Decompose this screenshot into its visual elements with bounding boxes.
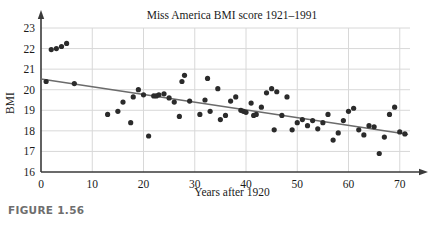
data-point — [336, 130, 341, 135]
data-point — [156, 92, 161, 97]
x-tick-label: 70 — [394, 178, 406, 190]
data-point — [64, 41, 69, 46]
data-point — [387, 112, 392, 117]
data-point — [197, 112, 202, 117]
data-point — [233, 94, 238, 99]
data-point — [325, 112, 330, 117]
data-point — [187, 98, 192, 103]
data-point — [295, 120, 300, 125]
y-tick-label: 17 — [24, 145, 36, 157]
figure-caption: FIGURE 1.56 — [8, 204, 84, 216]
data-point — [179, 79, 184, 84]
data-point — [320, 120, 325, 125]
data-point — [218, 117, 223, 122]
data-point — [54, 46, 59, 51]
data-point — [382, 134, 387, 139]
data-point — [346, 109, 351, 114]
y-axis-title: BMI — [4, 92, 16, 114]
chart-title: Miss America BMI score 1921–1991 — [147, 9, 318, 21]
data-point — [361, 132, 366, 137]
data-point — [72, 81, 77, 86]
data-point — [115, 109, 120, 114]
data-point — [377, 151, 382, 156]
y-tick-label: 23 — [24, 22, 36, 34]
y-tick-label: 20 — [24, 84, 36, 96]
x-axis-title: Years after 1920 — [194, 186, 270, 198]
x-tick-label: 50 — [292, 178, 304, 190]
data-point — [249, 100, 254, 105]
data-point — [279, 113, 284, 118]
data-point — [315, 126, 320, 131]
data-point — [300, 117, 305, 122]
data-point — [392, 105, 397, 110]
data-point — [397, 129, 402, 134]
data-point — [290, 127, 295, 132]
data-point — [215, 86, 220, 91]
data-point — [269, 86, 274, 91]
scatter-plot: 1617181920212223 010203040506070 Miss Am… — [0, 0, 431, 226]
y-tick-label: 16 — [24, 166, 36, 178]
data-point — [182, 73, 187, 78]
data-point — [264, 90, 269, 95]
x-tick-label: 0 — [38, 178, 44, 190]
y-tick-label: 21 — [24, 63, 36, 75]
data-point — [146, 133, 151, 138]
data-point — [284, 94, 289, 99]
x-tick-label: 10 — [87, 178, 99, 190]
data-point — [202, 97, 207, 102]
data-point — [356, 127, 361, 132]
data-point — [341, 118, 346, 123]
x-tick-label: 60 — [343, 178, 355, 190]
data-point — [228, 98, 233, 103]
data-point — [243, 110, 248, 115]
data-point — [141, 92, 146, 97]
data-point — [49, 47, 54, 52]
data-point — [223, 113, 228, 118]
data-point — [59, 44, 64, 49]
data-point — [272, 127, 277, 132]
data-point — [128, 120, 133, 125]
data-point — [172, 99, 177, 104]
data-point — [351, 106, 356, 111]
data-point — [136, 87, 141, 92]
data-point — [105, 112, 110, 117]
data-point — [274, 89, 279, 94]
y-tick-label: 22 — [24, 43, 36, 55]
data-point — [205, 76, 210, 81]
data-point — [44, 79, 49, 84]
data-point — [177, 114, 182, 119]
data-point — [120, 99, 125, 104]
data-point — [305, 123, 310, 128]
data-point — [310, 118, 315, 123]
data-point — [402, 131, 407, 136]
y-tick-label: 18 — [24, 125, 36, 137]
data-point — [254, 112, 259, 117]
data-point — [372, 124, 377, 129]
data-point — [167, 95, 172, 100]
data-point — [259, 105, 264, 110]
data-point — [161, 91, 166, 96]
data-point — [331, 138, 336, 143]
data-point — [208, 109, 213, 114]
data-point — [131, 94, 136, 99]
data-point — [366, 123, 371, 128]
y-tick-label: 19 — [24, 104, 36, 116]
figure-container: 1617181920212223 010203040506070 Miss Am… — [0, 0, 431, 226]
x-tick-label: 20 — [138, 178, 150, 190]
